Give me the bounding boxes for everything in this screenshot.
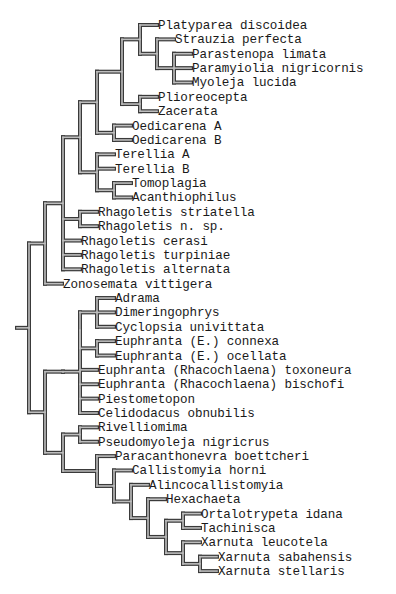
taxon-label: Celidodacus obnubilis [98, 407, 255, 421]
taxon-label: Rivelliomima [98, 421, 188, 435]
taxon-label: Rhagoletis alternata [81, 263, 231, 277]
taxon-label: Paramyiolia nigricornis [192, 62, 364, 76]
taxon-label: Adrama [115, 292, 160, 306]
taxon-label: Euphranta (E.) ocellata [115, 350, 287, 364]
taxon-label: Rhagoletis n. sp. [98, 220, 225, 234]
taxon-label: Cyclopsia univittata [115, 321, 265, 335]
taxon-label: Hexachaeta [166, 493, 241, 507]
taxon-label: Oedicarena B [132, 134, 222, 148]
taxon-label: Paracanthonevra boettcheri [115, 450, 309, 464]
taxon-label: Zonosemata vittigera [63, 278, 213, 292]
taxon-label: Alincocallistomyia [149, 479, 284, 493]
taxon-label: Ortalotrypeta idana [201, 508, 343, 522]
taxon-label: Tachinisca [201, 522, 276, 536]
taxon-label: Zacerata [158, 105, 218, 119]
taxon-label: Euphranta (Rhacochlaena) toxoneura [98, 364, 352, 378]
taxon-label: Oedicarena A [132, 120, 222, 134]
taxon-label: Platyparea discoidea [158, 19, 308, 33]
taxon-label: Euphranta (Rhacochlaena) bischofi [98, 378, 344, 392]
taxon-label: Terellia B [115, 163, 190, 177]
taxon-label: Piestometopon [98, 393, 195, 407]
taxon-label: Rhagoletis turpiniae [81, 249, 230, 263]
taxon-label: Terellia A [115, 148, 190, 162]
taxon-label: Rhagoletis striatella [98, 206, 255, 220]
taxon-label: Dimeringophrys [115, 306, 219, 320]
taxon-label: Myoleja lucida [192, 76, 297, 90]
taxon-label: Xarnuta leucotela [201, 536, 328, 550]
taxon-label: Euphranta (E.) connexa [115, 335, 280, 349]
cladogram: Platyparea discoideaStrauzia perfectaPar… [0, 0, 396, 594]
taxon-label: Acanthiophilus [132, 191, 236, 205]
taxon-label: Pseudomyoleja nigricrus [98, 436, 270, 450]
taxon-label: Callistomyia horni [132, 464, 266, 478]
taxon-label: Parastenopa limata [192, 48, 327, 62]
taxon-label: Rhagoletis cerasi [81, 235, 208, 249]
taxon-label: Tomoplagia [132, 177, 207, 191]
taxon-label: Xarnuta sabahensis [218, 551, 352, 565]
taxon-label: Plioreocepta [158, 91, 248, 105]
taxon-label: Xarnuta stellaris [218, 565, 345, 579]
taxon-label: Strauzia perfecta [175, 33, 302, 47]
